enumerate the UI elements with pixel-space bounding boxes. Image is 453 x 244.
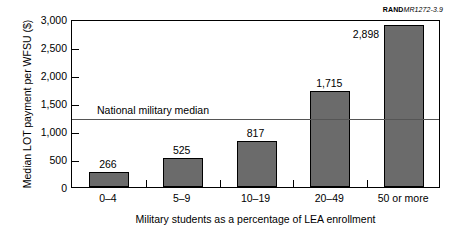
bar-4: [310, 91, 350, 187]
source-credit-report-id: MR1272-3.9: [403, 6, 443, 13]
y-axis-tick-label: 2,000: [7, 70, 67, 82]
bar-value-label: 266: [99, 158, 117, 170]
source-credit-rand: RAND: [383, 6, 404, 13]
x-axis-tick-label: 10–19: [241, 192, 270, 204]
y-axis-tick-mark: [72, 105, 79, 106]
y-axis-tick-mark: [72, 133, 79, 134]
y-axis-tick-label: 0: [7, 182, 67, 194]
y-axis-tick-label: 2,500: [7, 42, 67, 54]
bar-3: [237, 141, 277, 187]
x-axis-tick-label: 50 or more: [378, 192, 429, 204]
x-axis-tick-mark: [220, 180, 221, 187]
bar-1: [89, 172, 129, 187]
x-axis-tick-mark: [367, 180, 368, 187]
bar-value-label: 2,898: [335, 28, 379, 40]
y-axis-tick-label: 500: [7, 154, 67, 166]
bar-value-label: 817: [247, 127, 265, 139]
y-axis-tick-label: 1,000: [7, 126, 67, 138]
y-axis-tick-mark: [72, 49, 79, 50]
x-axis-tick-mark: [293, 180, 294, 187]
bar-value-label: 525: [173, 144, 191, 156]
y-axis-tick-mark: [72, 161, 79, 162]
x-axis-tick-mark: [146, 180, 147, 187]
x-axis-tick-label: 20–49: [315, 192, 344, 204]
y-axis-tick-label: 1,500: [7, 98, 67, 110]
x-axis-tick-label: 5–9: [173, 192, 191, 204]
x-axis-tick-label: 0–4: [99, 192, 117, 204]
bar-5: [384, 25, 424, 187]
bar-value-label: 1,715: [316, 77, 342, 89]
bar-2: [163, 158, 203, 187]
national-military-median-line: [72, 119, 439, 120]
national-military-median-label: National military median: [97, 104, 209, 116]
source-credit-label: RANDMR1272-3.9: [383, 6, 443, 13]
bar-chart-figure: RANDMR1272-3.9 Median LOT payment per WF…: [0, 0, 453, 244]
y-axis-tick-mark: [72, 77, 79, 78]
y-axis-tick-label: 3,000: [7, 14, 67, 26]
x-axis-title: Military students as a percentage of LEA…: [71, 213, 440, 225]
